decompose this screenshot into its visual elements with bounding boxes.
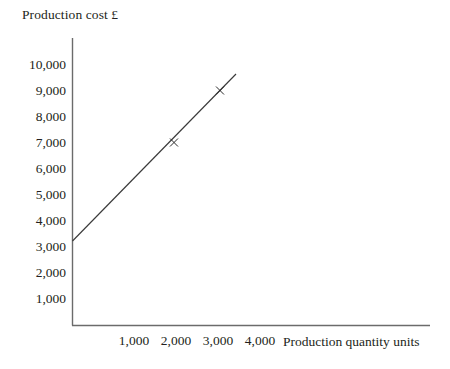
x-tick-label-2000: 2,000 [153,334,199,348]
x-tick-label-3000: 3,000 [195,334,241,348]
data-point-marker-2000 [170,139,178,147]
data-point-marker-3000 [216,87,224,95]
plot-area [0,0,450,369]
cost-line-series [73,74,237,241]
x-axis-title: Production quantity units [283,334,420,350]
chart-figure: Production cost £ 10,000 9,000 8,000 7,0… [0,0,450,369]
x-tick-label-4000: 4,000 [237,334,283,348]
x-tick-label-1000: 1,000 [111,334,157,348]
